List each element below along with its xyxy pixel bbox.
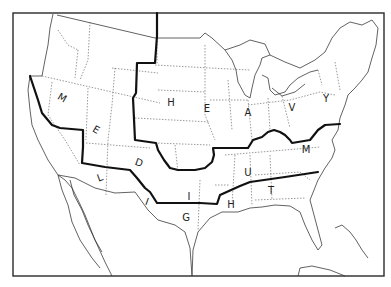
heavy-label-h: H [167, 97, 175, 108]
heavy-label-e: E [204, 103, 210, 114]
medium-label-u: U [244, 167, 251, 178]
medium-label-d: D [134, 156, 145, 169]
light-label-g: G [182, 212, 190, 223]
light-label-t: T [267, 185, 275, 196]
medium-label-i: I [188, 191, 191, 202]
heavy-label-v: V [289, 102, 296, 113]
medium-label-m2: M [302, 144, 311, 155]
us-zone-map: H E A V Y M E D I U M L I G H T [0, 0, 391, 287]
light-label-h: H [227, 199, 235, 210]
medium-label-m1: M [56, 91, 69, 105]
map-frame [13, 13, 384, 276]
heavy-label-a: A [245, 107, 252, 118]
light-label-l: L [95, 171, 104, 183]
medium-label-e: E [91, 123, 102, 136]
heavy-label-y: Y [322, 93, 330, 104]
light-label-i: I [144, 196, 151, 207]
state-borders [42, 22, 340, 230]
